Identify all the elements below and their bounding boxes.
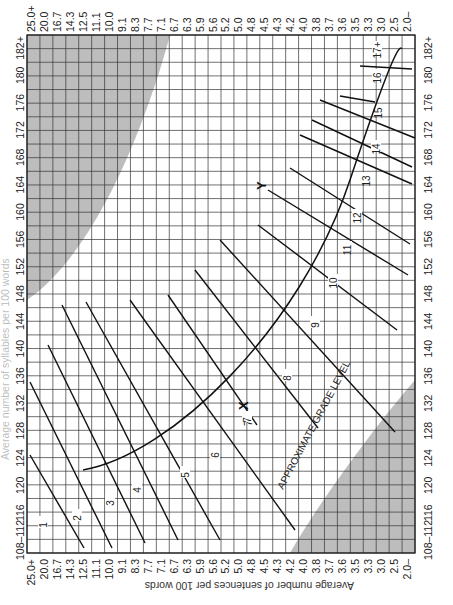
svg-text:5.9: 5.9 [194, 559, 206, 574]
grade-label: 9 [310, 322, 321, 328]
svg-text:136: 136 [422, 367, 434, 385]
svg-text:5.2: 5.2 [219, 17, 231, 32]
svg-text:10.0: 10.0 [103, 11, 115, 32]
svg-text:5.6: 5.6 [207, 17, 219, 32]
svg-text:5.6: 5.6 [207, 559, 219, 574]
svg-text:3.5: 3.5 [349, 17, 361, 32]
svg-text:11.1: 11.1 [90, 559, 102, 579]
svg-text:7.7: 7.7 [142, 559, 154, 574]
grade-line-1 [30, 455, 84, 548]
grade-label: 11 [342, 244, 353, 255]
grade-label: 3 [105, 500, 116, 506]
svg-text:128: 128 [14, 422, 26, 440]
svg-text:3.7: 3.7 [323, 559, 335, 574]
marker-y: Y [254, 181, 269, 190]
svg-text:132: 132 [422, 394, 434, 412]
svg-text:148: 148 [14, 285, 26, 303]
svg-text:3.6: 3.6 [336, 559, 348, 574]
svg-text:5.0: 5.0 [232, 17, 244, 32]
svg-text:2.5: 2.5 [388, 17, 400, 32]
svg-text:5.9: 5.9 [194, 17, 206, 32]
svg-text:3.8: 3.8 [310, 17, 322, 32]
svg-text:4.0: 4.0 [297, 559, 309, 574]
grade-line-4 [62, 305, 178, 540]
svg-text:3.3: 3.3 [362, 559, 374, 574]
svg-text:3.3: 3.3 [362, 17, 374, 32]
svg-text:168: 168 [14, 148, 26, 166]
grade-label: 10 [328, 277, 339, 289]
grade-line-6 [130, 300, 295, 530]
sentence-ticks-top: 25.0+20.016.714.312.511.110.09.18.37.77.… [25, 5, 412, 32]
svg-text:20.0: 20.0 [38, 559, 50, 580]
svg-text:172: 172 [422, 121, 434, 139]
svg-text:148: 148 [422, 285, 434, 303]
svg-text:180: 180 [14, 66, 26, 84]
grade-line-16 [340, 96, 375, 102]
grade-line-15 [320, 100, 415, 138]
svg-text:7.1: 7.1 [155, 17, 167, 32]
svg-text:16.7: 16.7 [51, 11, 63, 32]
svg-text:14.3: 14.3 [64, 11, 76, 32]
svg-text:4.2: 4.2 [284, 17, 296, 32]
svg-text:16.7: 16.7 [51, 559, 63, 580]
svg-text:20.0: 20.0 [38, 11, 50, 32]
svg-text:132: 132 [14, 394, 26, 412]
left-axis-title: Average number of syllables per 100 word… [0, 258, 11, 460]
bottom-axis-title: Average number of sentences per 100 word… [145, 580, 354, 592]
svg-text:6.3: 6.3 [181, 17, 193, 32]
svg-text:14.3: 14.3 [64, 559, 76, 580]
grade-label: 4 [132, 487, 143, 493]
svg-text:6.7: 6.7 [168, 559, 180, 574]
svg-text:156: 156 [14, 230, 26, 248]
svg-text:2.5: 2.5 [388, 559, 400, 574]
svg-text:8.3: 8.3 [129, 17, 141, 32]
svg-text:4.0: 4.0 [297, 17, 309, 32]
marker-x: X [236, 401, 251, 410]
marker-x-grade: 7 [243, 420, 254, 426]
svg-text:4.8: 4.8 [245, 559, 257, 574]
svg-text:3.7: 3.7 [323, 17, 335, 32]
svg-text:116: 116 [422, 504, 434, 521]
svg-text:144: 144 [422, 312, 434, 330]
svg-text:140: 140 [422, 340, 434, 358]
svg-text:180: 180 [422, 66, 434, 84]
svg-text:11.1: 11.1 [90, 12, 102, 32]
svg-text:4.3: 4.3 [271, 17, 283, 32]
svg-text:4.2: 4.2 [284, 559, 296, 574]
svg-text:152: 152 [422, 258, 434, 276]
svg-text:10.0: 10.0 [103, 559, 115, 580]
svg-text:3.0: 3.0 [375, 17, 387, 32]
svg-text:3.6: 3.6 [336, 17, 348, 32]
svg-text:7.7: 7.7 [142, 17, 154, 32]
grade-label: 17+ [372, 41, 383, 58]
svg-text:176: 176 [422, 94, 434, 112]
svg-text:176: 176 [14, 94, 26, 112]
svg-text:3.0: 3.0 [375, 559, 387, 574]
svg-text:128: 128 [422, 422, 434, 440]
svg-text:5.0: 5.0 [232, 559, 244, 574]
syllable-ticks-right: 108–112116120124128132136140144148152156… [422, 36, 434, 560]
svg-text:9.1: 9.1 [116, 559, 128, 574]
svg-text:108–112: 108–112 [14, 520, 26, 560]
svg-text:172: 172 [14, 121, 26, 139]
svg-text:160: 160 [14, 203, 26, 221]
svg-text:8.3: 8.3 [129, 559, 141, 574]
svg-text:3.8: 3.8 [310, 559, 322, 574]
svg-text:9.1: 9.1 [116, 17, 128, 32]
svg-text:116: 116 [14, 504, 26, 521]
svg-text:7.1: 7.1 [155, 559, 167, 574]
svg-text:168: 168 [422, 148, 434, 166]
svg-text:136: 136 [14, 367, 26, 385]
svg-text:4.5: 4.5 [258, 559, 270, 574]
grade-label: 1 [38, 522, 49, 528]
svg-text:182+: 182+ [422, 36, 434, 60]
grade-label: 13 [361, 175, 372, 187]
svg-text:25.0+: 25.0+ [25, 559, 37, 586]
grade-line-11 [268, 190, 408, 275]
svg-text:152: 152 [14, 258, 26, 276]
svg-text:12.5: 12.5 [77, 559, 89, 580]
svg-text:108–112: 108–112 [422, 520, 434, 560]
grade-line-17+ [360, 66, 412, 69]
grade-label: 2 [72, 515, 83, 521]
grade-label: 12 [352, 212, 363, 224]
